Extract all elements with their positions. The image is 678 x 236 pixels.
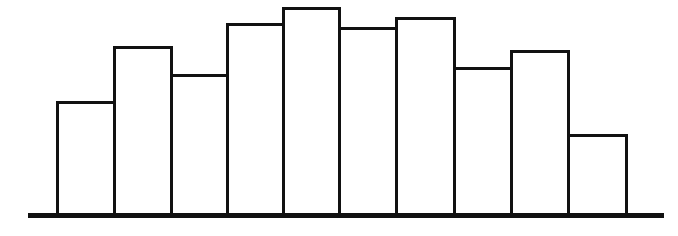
x-axis-baseline — [28, 213, 664, 218]
bar-8 — [453, 67, 513, 215]
bar-6 — [338, 27, 398, 215]
histogram-chart — [0, 0, 678, 236]
bar-2 — [113, 46, 173, 215]
bar-3 — [170, 74, 229, 215]
bar-5 — [282, 7, 341, 215]
bar-4 — [226, 23, 285, 215]
bar-9 — [510, 50, 570, 215]
bar-7 — [395, 17, 456, 215]
bar-10 — [567, 134, 628, 215]
bar-1 — [56, 101, 116, 215]
